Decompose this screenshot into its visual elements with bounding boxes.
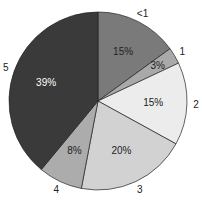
slice-category-label: <1 [137, 8, 149, 19]
slice-percent-label: 39% [36, 77, 56, 88]
slice-percent-label: 15% [113, 46, 133, 57]
slice-category-label: 2 [193, 99, 199, 110]
slice-category-label: 4 [54, 184, 60, 195]
slice-category-label: 5 [3, 62, 9, 73]
pie-chart: 15%3%15%20%8%39% <112345 [0, 0, 202, 202]
slice-percent-label: 8% [67, 145, 82, 156]
slice-percent-label: 15% [143, 97, 163, 108]
slice-percent-label: 3% [151, 60, 166, 71]
slice-percent-label: 20% [111, 145, 131, 156]
slice-category-label: 3 [137, 184, 143, 195]
slice-category-label: 1 [180, 46, 186, 57]
